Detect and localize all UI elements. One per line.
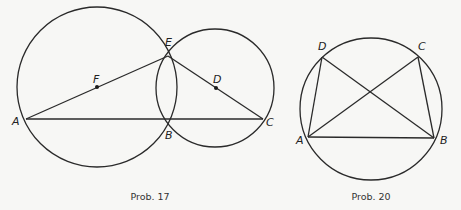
label-b: B xyxy=(165,129,173,142)
label-e: E xyxy=(165,36,172,49)
caption-prob-17: Prob. 17 xyxy=(130,191,169,202)
segment-bd xyxy=(322,57,434,138)
label-c: C xyxy=(266,116,274,129)
label-d: D xyxy=(318,40,326,53)
figure-prob-20: A B C D Prob. 20 xyxy=(295,38,448,202)
label-a: A xyxy=(295,134,304,147)
point-d-dot xyxy=(214,86,218,90)
label-a: A xyxy=(11,115,20,128)
label-b: B xyxy=(440,134,448,147)
segment-ad xyxy=(308,57,322,137)
label-f: F xyxy=(93,73,100,86)
label-d: D xyxy=(213,73,221,86)
caption-prob-20: Prob. 20 xyxy=(351,191,390,202)
diagram-canvas: A B C E F D Prob. 17 A B C D Prob. 20 xyxy=(0,0,461,210)
geometry-diagram: A B C E F D Prob. 17 A B C D Prob. 20 xyxy=(0,0,461,210)
segment-ac xyxy=(308,57,418,137)
label-c: C xyxy=(418,40,426,53)
figure-prob-17: A B C E F D Prob. 17 xyxy=(11,7,274,202)
segment-bc xyxy=(418,57,434,138)
segment-ab xyxy=(308,137,434,138)
